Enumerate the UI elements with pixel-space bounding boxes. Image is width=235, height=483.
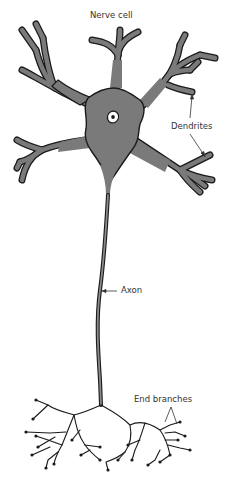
dendrites-pointer-lower: [190, 134, 204, 155]
arrowhead-icon: [102, 290, 106, 293]
axon-label: Axon: [121, 286, 142, 295]
end-branches-pointer-1: [165, 407, 171, 422]
end-branches: [26, 400, 190, 470]
end-branches-label: End branches: [134, 395, 192, 404]
end-branches-pointer-2: [171, 407, 177, 424]
diagram-title: Nerve cell: [90, 11, 133, 20]
axon: [98, 195, 108, 405]
neuron-illustration: [0, 0, 235, 483]
dendrites-label: Dendrites: [171, 122, 212, 131]
nerve-cell-diagram: Nerve cell Dendrites Axon End branches: [0, 0, 235, 483]
nucleolus: [111, 115, 115, 119]
axon-hillock: [100, 165, 118, 195]
